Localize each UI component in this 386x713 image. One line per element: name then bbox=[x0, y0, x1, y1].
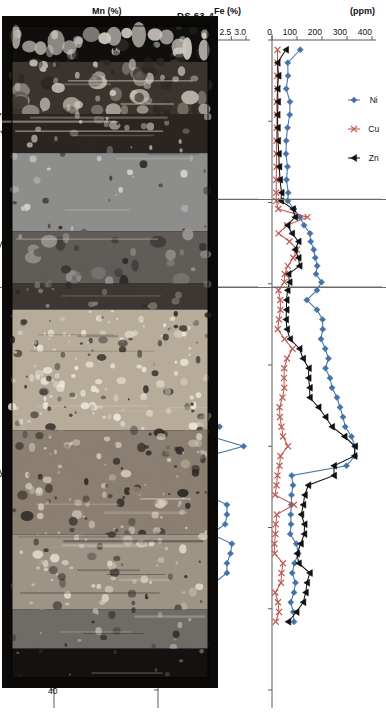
legend-label: Ni bbox=[370, 96, 378, 105]
legend-item-ni[interactable]: Ni bbox=[348, 92, 379, 108]
svg-text:300: 300 bbox=[333, 27, 347, 37]
svg-text:100: 100 bbox=[283, 27, 297, 37]
legend-label: Cu bbox=[368, 125, 379, 134]
axis-title-mn: Mn (%) bbox=[92, 6, 122, 16]
legend-trace-metals: NiCuZn bbox=[348, 92, 379, 166]
svg-text:2.5: 2.5 bbox=[220, 27, 232, 37]
legend-item-cu[interactable]: Cu bbox=[348, 121, 379, 137]
legend-label: Zn bbox=[369, 154, 379, 163]
crust-photo: DS 63-4 bbox=[2, 16, 218, 688]
legend-marker-zn bbox=[348, 150, 362, 166]
crust-cross-section-image bbox=[2, 16, 218, 688]
legend-item-zn[interactable]: Zn bbox=[348, 150, 379, 166]
sample-label: DS 63-4 bbox=[177, 10, 214, 21]
legend-marker-ni bbox=[348, 92, 362, 108]
chart-panel-trace-metals: (ppm) 0100200300400 NiCuZn bbox=[258, 0, 386, 713]
legend-marker-cu bbox=[348, 121, 362, 137]
svg-text:0: 0 bbox=[267, 27, 272, 37]
axis-title-ppm: (ppm) bbox=[350, 6, 375, 16]
figure-root: (ppm) 0100200300400 NiCuZn Fe (%) 0.00.5… bbox=[0, 0, 386, 713]
axis-title-fe: Fe (%) bbox=[214, 6, 241, 16]
svg-text:200: 200 bbox=[308, 27, 322, 37]
svg-text:3.0: 3.0 bbox=[234, 27, 246, 37]
svg-text:400: 400 bbox=[358, 27, 372, 37]
